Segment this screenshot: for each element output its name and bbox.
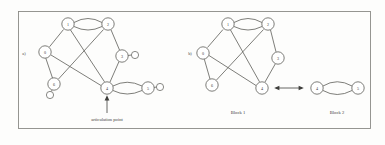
node-b1-6-label: 6 (211, 83, 213, 88)
node-b1-2: 2 (262, 18, 274, 30)
node-b1-6: 6 (206, 79, 218, 91)
node-b2-4: 4 (311, 82, 323, 94)
block-1-label: Block 1 (231, 110, 246, 115)
node-a-4: 4 (101, 82, 113, 94)
node-b1-0-label: 0 (202, 51, 204, 56)
node-b1-4: 4 (256, 82, 268, 94)
node-a-5-label: 5 (147, 86, 149, 91)
node-b1-1: 1 (222, 18, 234, 30)
node-a-2: 2 (102, 18, 114, 30)
node-a-2-label: 2 (107, 22, 109, 27)
node-b1-3: 3 (272, 52, 284, 64)
node-a-pendant-3 (131, 51, 138, 58)
node-a-1-label: 1 (67, 22, 69, 27)
node-a-0: 0 (39, 46, 51, 58)
node-a-6: 6 (48, 78, 60, 90)
node-b1-0: 0 (197, 47, 209, 59)
node-a-pendant-5 (156, 83, 163, 90)
node-a-3: 3 (116, 50, 128, 62)
node-a-1: 1 (62, 18, 74, 30)
node-a-3-label: 3 (121, 54, 123, 59)
node-a-5: 5 (142, 82, 154, 94)
node-b1-3-label: 3 (277, 56, 279, 61)
node-a-4-label: 4 (106, 86, 108, 91)
figure-container: a) (0, 0, 385, 145)
node-b1-1-label: 1 (227, 22, 229, 27)
graph-figure: a) (0, 0, 385, 145)
node-b1-4-label: 4 (261, 86, 263, 91)
block-2-label: Block 2 (330, 110, 345, 115)
articulation-point-label: articulation point (91, 117, 123, 122)
node-a-pendant-6 (46, 91, 53, 98)
panel-a-label: a) (22, 51, 26, 56)
panel-b-label: b) (188, 51, 192, 56)
node-a-0-label: 0 (44, 50, 46, 55)
node-b2-5-label: 5 (357, 86, 359, 91)
node-b2-5: 5 (352, 82, 364, 94)
node-a-6-label: 6 (53, 82, 55, 87)
node-b2-4-label: 4 (316, 86, 318, 91)
node-b1-2-label: 2 (267, 22, 269, 27)
